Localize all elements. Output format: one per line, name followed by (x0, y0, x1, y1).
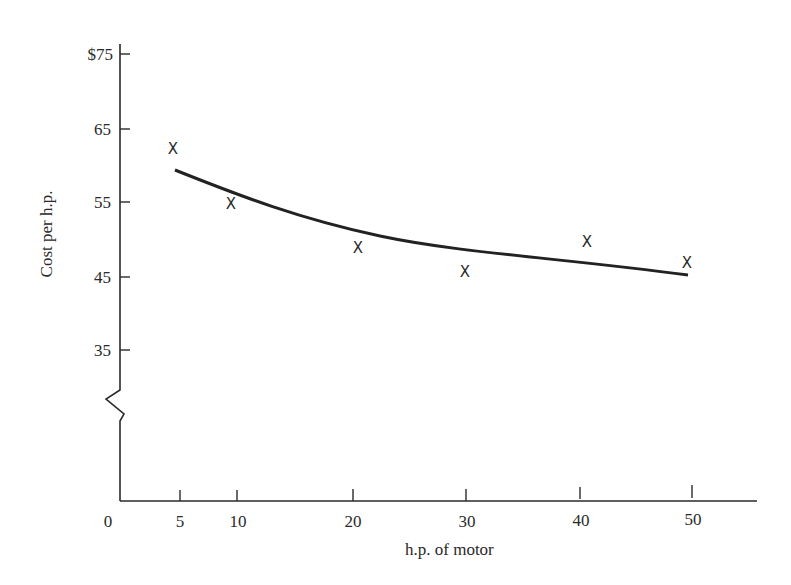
data-point-x-marker: X (168, 140, 178, 158)
data-point-x-marker: X (460, 263, 470, 281)
data-point-x-marker: X (582, 233, 592, 251)
data-points: X X X X X X (168, 140, 692, 281)
x-tick-10: 10 (230, 512, 247, 531)
chart: $75 65 55 45 35 0 5 10 20 30 40 50 h.p. … (0, 0, 791, 585)
y-tick-45: 45 (94, 268, 111, 287)
x-tick-labels: 0 5 10 20 30 40 50 (104, 510, 702, 531)
data-point-x-marker: X (226, 195, 236, 213)
y-tick-75: $75 (88, 45, 114, 64)
y-axis-title: Cost per h.p. (37, 191, 56, 278)
data-point-x-marker: X (353, 239, 363, 257)
y-tick-35: 35 (94, 341, 111, 360)
x-tick-20: 20 (345, 512, 362, 531)
x-tick-30: 30 (459, 512, 476, 531)
y-tick-65: 65 (94, 120, 111, 139)
x-tick-50: 50 (685, 510, 702, 529)
data-point-x-marker: X (682, 254, 692, 272)
y-tick-55: 55 (94, 193, 111, 212)
x-axis-title: h.p. of motor (405, 540, 494, 559)
y-ticks (120, 54, 130, 350)
y-tick-labels: $75 65 55 45 35 (88, 45, 114, 360)
x-tick-40: 40 (573, 511, 590, 530)
fitted-curve (175, 170, 688, 275)
x-tick-0: 0 (104, 512, 113, 531)
x-tick-5: 5 (176, 512, 185, 531)
x-ticks (180, 485, 692, 501)
